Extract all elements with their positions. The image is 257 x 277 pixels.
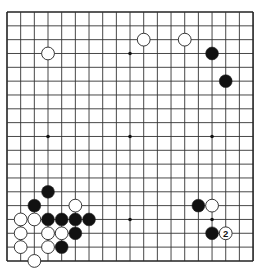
star-point [210,218,214,222]
star-point [128,135,132,139]
white-stone [14,227,27,240]
black-stone [28,199,41,212]
black-stone [192,199,205,212]
star-point [128,218,132,222]
white-stone [14,213,27,226]
white-stone [69,199,82,212]
black-stone [206,47,219,60]
go-board[interactable]: 2 [0,0,257,277]
white-stone [206,199,219,212]
black-stone [69,227,82,240]
white-stone [42,241,55,254]
star-point [210,135,214,139]
white-stone [55,227,68,240]
star-point [128,52,132,56]
black-stone [42,185,55,198]
star-point [46,135,50,139]
white-stone [28,255,41,268]
white-stone [137,33,150,46]
black-stone [69,213,82,226]
black-stone [219,75,232,88]
white-stone [28,213,41,226]
black-stone [55,213,68,226]
move-number-label: 2 [223,228,228,239]
white-stone [42,47,55,60]
black-stone [83,213,96,226]
black-stone [42,213,55,226]
black-stone [55,241,68,254]
white-stone [14,241,27,254]
white-stone [178,33,191,46]
black-stone [206,227,219,240]
white-stone [42,227,55,240]
